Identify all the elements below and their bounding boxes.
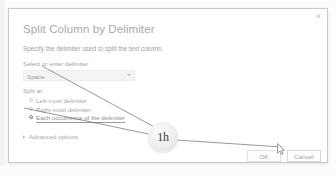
ok-button[interactable]: OK bbox=[247, 150, 281, 162]
chevron-down-icon bbox=[127, 74, 131, 76]
annotation-badge: 1h bbox=[148, 122, 178, 152]
delimiter-select[interactable]: Space bbox=[23, 70, 135, 81]
radio-icon-selected bbox=[29, 115, 33, 119]
delimiter-label: Select or enter delimiter bbox=[23, 60, 88, 67]
radio-icon bbox=[29, 98, 33, 102]
backdrop-edge-left bbox=[0, 0, 5, 176]
radio-label: Each occurrence of the delimiter bbox=[36, 113, 125, 123]
chevron-right-icon bbox=[23, 135, 25, 139]
screen: ✕ Split Column by Delimiter Specify the … bbox=[0, 0, 336, 176]
annotation-badge-label: 1h bbox=[157, 130, 169, 145]
advanced-options-label: Advanced options bbox=[29, 132, 78, 141]
page-title: Split Column by Delimiter bbox=[23, 23, 155, 35]
split-at-label: Split at bbox=[23, 87, 42, 94]
dialog-subtitle: Specify the delimiter used to split the … bbox=[23, 45, 163, 52]
backdrop-edge-bottom bbox=[0, 166, 336, 176]
cancel-button[interactable]: Cancel bbox=[287, 150, 321, 162]
close-icon[interactable]: ✕ bbox=[312, 11, 324, 22]
radio-icon bbox=[29, 107, 33, 111]
delimiter-value: Space bbox=[27, 72, 45, 81]
